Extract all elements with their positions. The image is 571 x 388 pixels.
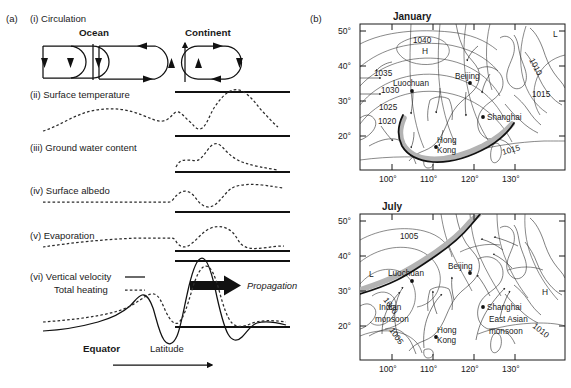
city-label-luochuan-july: Luochuan xyxy=(388,269,424,278)
monsoon-label-eastasian-2: monsoon xyxy=(489,327,523,336)
lat-tick-july-30: 30° xyxy=(338,286,351,296)
circulation-cells xyxy=(41,43,243,83)
row-label-surface-temperature: (ii) Surface temperature xyxy=(30,89,130,100)
lat-tick-january-50: 50° xyxy=(338,26,351,36)
arrow-right-cont-top xyxy=(213,43,223,50)
pressure-center-h-july: H xyxy=(542,287,548,297)
map-january: 1040 H 1035 1030 1025 1020 1010 1015 101… xyxy=(338,24,565,184)
panel-a-tag: (a) xyxy=(6,13,18,24)
monsoon-label-eastasian-1: East Asian xyxy=(489,315,528,324)
arrow-up-continent xyxy=(195,58,202,68)
panel-b-tag: (b) xyxy=(310,13,322,24)
lat-tick-july-20: 20° xyxy=(338,321,351,331)
isobar-label-1035: 1035 xyxy=(374,69,393,78)
equator-label: Equator xyxy=(83,343,120,354)
arrow-left-cont-bottom xyxy=(211,76,221,83)
row-label-surface-albedo: (iv) Surface albedo xyxy=(30,185,110,196)
lon-tick-july-110: 110° xyxy=(420,364,437,374)
arrow-down-2 xyxy=(67,58,74,68)
row-label-evaporation: (v) Evaporation xyxy=(30,230,94,241)
curve-ground-water xyxy=(176,144,278,170)
latitude-label: Latitude xyxy=(150,343,184,354)
arrow-left-top xyxy=(137,43,147,50)
lat-tick-january-30: 30° xyxy=(338,96,351,106)
city-label-shanghai-january: Shanghai xyxy=(487,113,522,122)
arrow-down-1 xyxy=(41,58,48,68)
map-title-july: July xyxy=(382,201,402,212)
lat-tick-january-40: 40° xyxy=(338,61,351,71)
isobar-label-1020: 1020 xyxy=(378,117,397,126)
lon-tick-july-130: 130° xyxy=(502,364,520,374)
lat-tick-july-50: 50° xyxy=(338,216,351,226)
arrow-right-bottom xyxy=(143,76,153,83)
city-label-luochuan-january: Luochuan xyxy=(393,79,429,88)
city-label-shanghai-july: Shanghai xyxy=(487,303,522,312)
lon-tick-july-120: 120° xyxy=(461,364,479,374)
continent-label: Continent xyxy=(185,27,231,38)
city-label-beijing-july: Beijing xyxy=(448,262,473,271)
arrow-up-ocean xyxy=(168,58,175,68)
lon-tick-january-120: 120° xyxy=(461,174,479,184)
monsoon-label-indian-2: monsoon xyxy=(375,315,409,324)
figure-svg: (a) (i) Circulation Ocean Continent (ii)… xyxy=(0,0,571,388)
arrow-down-3 xyxy=(95,58,102,68)
isobar-label-1015-a: 1015 xyxy=(532,90,551,99)
pressure-center-l-july: L xyxy=(369,269,374,279)
city-label-hongkong-january-2: Kong xyxy=(437,146,457,155)
lon-tick-january-110: 110° xyxy=(420,174,437,184)
figure-root: (a) (i) Circulation Ocean Continent (ii)… xyxy=(0,0,571,388)
lon-tick-january-130: 130° xyxy=(502,174,520,184)
lon-tick-january-100: 100° xyxy=(379,174,397,184)
isobar-label-july-1005: 1005 xyxy=(400,232,419,241)
city-label-beijing-january: Beijing xyxy=(455,72,480,81)
row-label-circulation: (i) Circulation xyxy=(30,13,86,24)
isobar-label-1040: 1040 xyxy=(413,36,432,45)
row-label-vertical-velocity: (vi) Vertical velocity xyxy=(30,271,112,282)
city-label-hongkong-july-1: Hong xyxy=(437,326,457,335)
pressure-center-h-january: H xyxy=(422,46,428,56)
row-label-total-heating: Total heating xyxy=(54,284,108,295)
row-label-ground-water: (iii) Ground water content xyxy=(30,142,137,153)
lat-tick-july-40: 40° xyxy=(338,251,351,261)
lon-tick-july-100: 100° xyxy=(379,364,397,374)
lat-tick-january-20: 20° xyxy=(338,131,351,141)
monsoon-label-indian-1: Indian xyxy=(379,303,402,312)
city-label-hongkong-july-2: Kong xyxy=(437,336,457,345)
map-july: 1005 1000 1005 1010 L H Beijing Luochuan… xyxy=(338,214,565,374)
propagation-label: Propagation xyxy=(247,281,297,291)
ocean-label: Ocean xyxy=(79,27,109,38)
pressure-center-l-january: L xyxy=(553,29,558,39)
city-label-hongkong-january-1: Hong xyxy=(437,136,457,145)
map-title-january: January xyxy=(393,11,432,22)
isobar-label-1025: 1025 xyxy=(379,103,398,112)
